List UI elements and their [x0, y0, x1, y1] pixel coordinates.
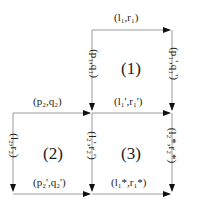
s2-left-label: (l₂,r₂) [9, 133, 20, 157]
s3-right-label: (l₂*,r₂*) [167, 128, 178, 163]
s2-top-label: (p₂,q₂) [33, 96, 62, 107]
s1-bottom-label: (l₁',r₁') [114, 96, 142, 107]
s3-bottom-label: (l₁*,r₁*) [111, 177, 146, 188]
square-3-label: (3) [121, 145, 141, 162]
s1-top-label: (l₁,r₁) [114, 12, 138, 23]
square-1-label: (1) [121, 60, 141, 77]
s1-left-label: (p₁,q₁) [89, 49, 100, 78]
s1-right-label: (p₁',q₁') [169, 47, 180, 80]
s2-bottom-label: (p₂',q₂') [33, 177, 66, 188]
diagram-canvas [0, 0, 200, 207]
square-2-label: (2) [43, 145, 63, 162]
s2-right-label: (l₂',r₂') [87, 131, 98, 159]
